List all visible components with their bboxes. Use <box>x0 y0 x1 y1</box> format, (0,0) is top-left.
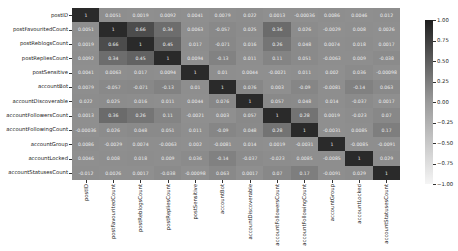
colorbar-tick-label: 0.00 <box>437 99 449 105</box>
heatmap-cell: -0.0029 <box>99 137 127 152</box>
heatmap-cell: -0.00036 <box>72 123 100 138</box>
colorbar-tick-mark <box>433 123 436 124</box>
heatmap-cell: 0.34 <box>154 22 182 37</box>
heatmap-cell: -0.0029 <box>318 22 346 37</box>
colorbar-tick-label: 0.25 <box>437 78 449 84</box>
heatmap-cell: 0.026 <box>291 22 319 37</box>
heatmap-cell: -0.13 <box>154 80 182 95</box>
x-axis-label: postSensitive <box>192 184 198 220</box>
heatmap-cell: 0.057 <box>236 108 264 123</box>
heatmap-cell: 0.07 <box>373 108 401 123</box>
heatmap-cell: 0.017 <box>181 37 209 52</box>
heatmap-cell: 1 <box>209 80 237 95</box>
heatmap-cell: 0.018 <box>127 151 155 166</box>
y-axis-label: accountLocked <box>28 155 68 161</box>
heatmap-cell: 0.0017 <box>373 94 401 109</box>
heatmap-cell: -0.0021 <box>263 65 291 80</box>
heatmap-cell: 0.011 <box>154 94 182 109</box>
heatmap-cell: 0.0046 <box>72 151 100 166</box>
heatmap-cell: 0.0017 <box>127 166 155 181</box>
heatmap-cell: 0.051 <box>154 123 182 138</box>
heatmap-cell: 0.008 <box>99 151 127 166</box>
heatmap-cell: 1 <box>181 65 209 80</box>
heatmap-cell: 1 <box>72 8 100 23</box>
x-tick-mark <box>113 180 114 183</box>
heatmap-cell: -0.037 <box>236 151 264 166</box>
heatmap-cell: 0.029 <box>345 166 373 181</box>
x-tick-mark <box>332 180 333 183</box>
heatmap-cell: 0.029 <box>373 151 401 166</box>
heatmap-cell: 0.0063 <box>181 22 209 37</box>
heatmap-cell: 0.0079 <box>72 80 100 95</box>
colorbar-tick-mark <box>433 41 436 42</box>
heatmap-cell: 0.017 <box>127 65 155 80</box>
heatmap-cell: 0.063 <box>209 166 237 181</box>
y-axis-label: accountFollowersCount <box>6 112 68 118</box>
x-tick-mark <box>168 180 169 183</box>
x-tick-mark <box>222 180 223 183</box>
heatmap-cell: 0.012 <box>373 8 401 23</box>
heatmap-cell: 1 <box>291 123 319 138</box>
heatmap-cell: 0.34 <box>99 51 127 66</box>
heatmap-cell: 0.0094 <box>181 51 209 66</box>
colorbar-tick-mark <box>433 82 436 83</box>
heatmap-cell: 0.016 <box>236 37 264 52</box>
heatmap-cell: 0.002 <box>318 65 346 80</box>
y-axis-label: postFavouritedCount <box>13 26 68 32</box>
heatmap-cell: 0.28 <box>263 123 291 138</box>
heatmap-cell: 0.0041 <box>72 65 100 80</box>
x-axis-label: accountStatusesCount <box>383 184 389 244</box>
heatmap-cell: 0.014 <box>318 94 346 109</box>
heatmap-cell: 0.048 <box>236 123 264 138</box>
x-tick-mark <box>277 180 278 183</box>
correlation-heatmap: postIDpostFavouritedCountpostReblogsCoun… <box>0 0 458 251</box>
heatmap-cell: -0.057 <box>209 22 237 37</box>
heatmap-cell: 1 <box>373 166 401 181</box>
heatmap-cell: -0.0021 <box>181 108 209 123</box>
heatmap-cell: 0.36 <box>263 22 291 37</box>
heatmap-cell: 0.0019 <box>318 108 346 123</box>
heatmap-cell: -0.0081 <box>318 80 346 95</box>
colorbar-tick-mark <box>433 143 436 144</box>
heatmap-cell: -0.057 <box>99 80 127 95</box>
x-axis-label: accountFollowingCount <box>301 184 307 246</box>
heatmap-cell: 0.0019 <box>127 8 155 23</box>
heatmap-cell: 0.076 <box>209 94 237 109</box>
x-tick-mark <box>195 180 196 183</box>
heatmap-cell: 1 <box>263 108 291 123</box>
heatmap-cell: -0.00036 <box>291 8 319 23</box>
heatmap-cell: 0.0051 <box>72 22 100 37</box>
heatmap-cell: 0.063 <box>373 80 401 95</box>
y-axis-label: postRepliesCount <box>22 55 68 61</box>
heatmap-cell: 0.01 <box>181 80 209 95</box>
heatmap-cell: 0.0019 <box>263 137 291 152</box>
heatmap-cell: -0.071 <box>209 37 237 52</box>
heatmap-cell: 0.022 <box>236 8 264 23</box>
heatmap-cell: 1 <box>236 94 264 109</box>
heatmap-cell: 0.0019 <box>72 37 100 52</box>
colorbar-tick-mark <box>433 20 436 21</box>
heatmap-cell: 0.0092 <box>154 8 182 23</box>
heatmap-cell: 0.07 <box>263 166 291 181</box>
heatmap-cell: 0.026 <box>99 123 127 138</box>
heatmap-cell: 0.0044 <box>181 94 209 109</box>
heatmap-cell: -0.012 <box>72 166 100 181</box>
colorbar-tick-label: −0.25 <box>437 119 453 125</box>
heatmap-cell: 0.051 <box>291 51 319 66</box>
colorbar-tick-mark <box>433 61 436 62</box>
heatmap-cell: -0.0063 <box>318 51 346 66</box>
heatmap-cell: 0.009 <box>345 51 373 66</box>
x-axis-label: accountBot <box>219 184 225 214</box>
heatmap-cell: 0.016 <box>127 94 155 109</box>
heatmap-cell: -0.0031 <box>291 137 319 152</box>
heatmap-cell: 1 <box>318 137 346 152</box>
x-axis-label: accountFollowersCount <box>274 184 280 246</box>
x-axis-label: accountDiscoverable <box>247 184 253 239</box>
heatmap-cell: -0.13 <box>209 51 237 66</box>
heatmap-cell: 0.26 <box>127 108 155 123</box>
heatmap-cell: 0.26 <box>263 37 291 52</box>
heatmap-cell: 0.0079 <box>209 8 237 23</box>
colorbar-tick-label: −0.50 <box>437 140 453 146</box>
heatmap-cell: 0.0074 <box>318 37 346 52</box>
y-axis-label: accountFollowingCount <box>6 126 68 132</box>
